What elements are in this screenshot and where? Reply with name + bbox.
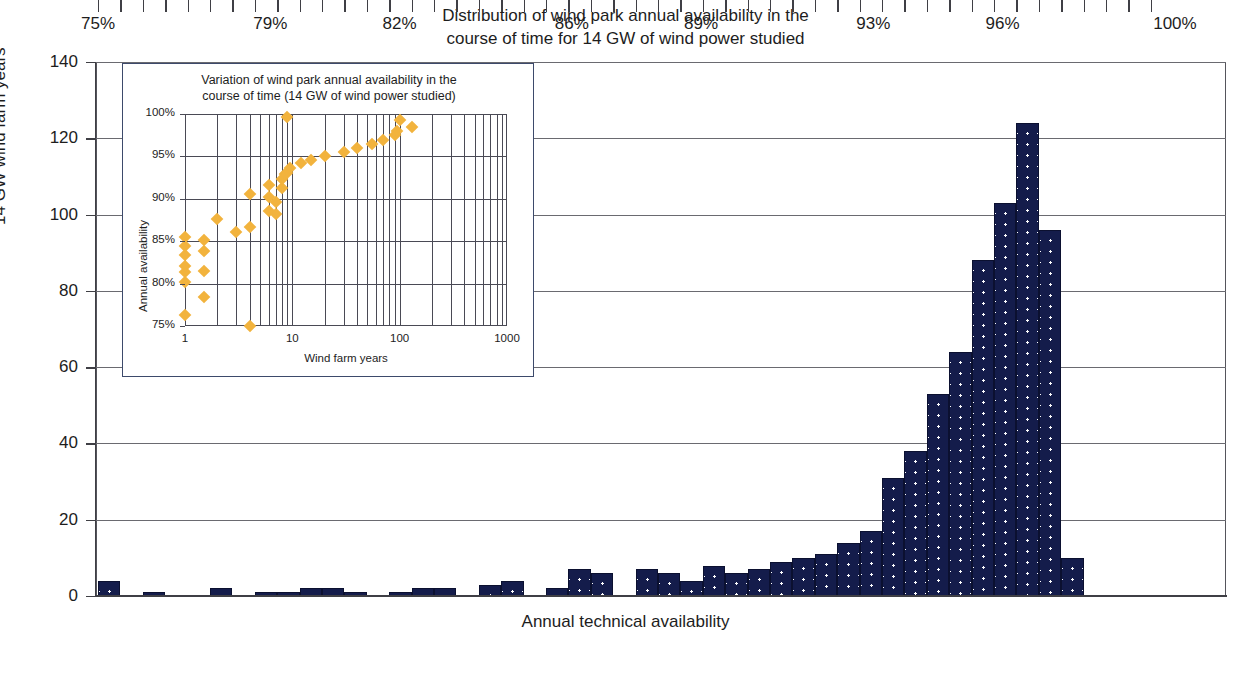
- inset-gridline: [269, 114, 270, 326]
- x-axis-tick-label: 93%: [856, 14, 890, 34]
- x-axis-tick: [1128, 0, 1129, 12]
- histogram-bar: [680, 581, 702, 596]
- y-axis-tick-label: 0: [18, 586, 78, 606]
- inset-gridline: [325, 114, 326, 326]
- inset-plot-area: 75%80%85%90%95%100% 1101001000: [185, 114, 507, 326]
- x-axis-tick: [143, 0, 144, 12]
- y-axis-tick: [86, 215, 95, 216]
- x-axis-tick: [344, 0, 345, 12]
- histogram-bar: [927, 394, 949, 596]
- x-axis-tick: [1061, 0, 1062, 12]
- chart-page: Distribution of wind park annual availab…: [0, 0, 1251, 676]
- inset-gridline: [282, 114, 283, 326]
- inset-y-tick-label: 75%: [131, 318, 175, 330]
- x-axis-tick: [300, 0, 301, 12]
- y-axis-tick-label: 120: [18, 128, 78, 148]
- x-axis-tick: [613, 0, 614, 12]
- main-x-axis: [96, 595, 1227, 597]
- inset-gridline: [451, 114, 452, 326]
- inset-x-tick-label: 1: [182, 332, 188, 344]
- x-axis-tick: [434, 0, 435, 12]
- x-axis-tick: [882, 0, 883, 12]
- x-axis-tick: [412, 0, 413, 12]
- x-axis-tick: [725, 0, 726, 12]
- y-axis-tick-label: 80: [18, 281, 78, 301]
- histogram-bar: [658, 573, 680, 596]
- main-x-axis-title: Annual technical availability: [0, 612, 1251, 632]
- y-axis-tick: [86, 62, 95, 63]
- histogram-bar: [770, 562, 792, 596]
- x-axis-tick: [792, 0, 793, 12]
- x-axis-tick: [501, 0, 502, 12]
- histogram-bar: [904, 451, 926, 596]
- histogram-bar: [837, 543, 859, 596]
- histogram-bar: [815, 554, 837, 596]
- y-axis-tick-label: 20: [18, 510, 78, 530]
- inset-chart: Variation of wind park annual availabili…: [122, 63, 534, 377]
- inset-y-tick-label: 85%: [131, 233, 175, 245]
- inset-gridline: [185, 156, 507, 157]
- histogram-bar: [1016, 123, 1038, 596]
- inset-gridline: [185, 199, 507, 200]
- x-axis-tick: [994, 0, 995, 12]
- y-axis-tick-label: 100: [18, 205, 78, 225]
- x-axis-tick: [703, 0, 704, 12]
- x-axis-tick: [1151, 0, 1152, 12]
- x-axis-tick: [658, 0, 659, 12]
- inset-y-tick-label: 95%: [131, 148, 175, 160]
- y-axis-tick-label: 40: [18, 433, 78, 453]
- x-axis-tick: [904, 0, 905, 12]
- histogram-bar: [972, 260, 994, 596]
- inset-chart-title: Variation of wind park annual availabili…: [123, 72, 535, 104]
- inset-gridline: [400, 114, 401, 326]
- x-axis-tick-label: 82%: [383, 14, 417, 34]
- inset-title-line-2: course of time (14 GW of wind power stud…: [123, 88, 535, 104]
- histogram-bar: [703, 566, 725, 597]
- histogram-bar: [725, 573, 747, 596]
- inset-y-tick: [180, 284, 185, 285]
- x-axis-tick: [456, 0, 457, 12]
- histogram-bar: [792, 558, 814, 596]
- x-axis-tick: [524, 0, 525, 12]
- histogram-bar: [748, 569, 770, 596]
- inset-y-tick: [180, 156, 185, 157]
- x-axis-tick: [255, 0, 256, 12]
- inset-gridline: [236, 114, 237, 326]
- x-axis-tick: [232, 0, 233, 12]
- inset-x-tick-label: 1000: [494, 332, 520, 344]
- histogram-bar: [591, 573, 613, 596]
- y-axis-tick: [86, 443, 95, 444]
- x-axis-tick-label: 79%: [253, 14, 287, 34]
- x-axis-tick: [972, 0, 973, 12]
- x-axis-tick-label: 75%: [81, 14, 115, 34]
- histogram-bar: [568, 569, 590, 596]
- inset-gridline: [185, 284, 507, 285]
- histogram-bar: [98, 581, 120, 596]
- x-axis-tick: [120, 0, 121, 12]
- x-axis-tick: [680, 0, 681, 12]
- y-axis-tick: [86, 367, 95, 368]
- inset-gridline: [490, 114, 491, 326]
- inset-y-tick-label: 80%: [131, 276, 175, 288]
- inset-y-tick: [180, 114, 185, 115]
- x-axis-tick: [1084, 0, 1085, 12]
- inset-gridline: [395, 114, 396, 326]
- main-title-line-2: course of time for 14 GW of wind power s…: [0, 27, 1251, 50]
- inset-gridline: [292, 114, 293, 326]
- inset-gridline: [464, 114, 465, 326]
- x-axis-tick-label: 89%: [684, 14, 718, 34]
- x-axis-tick-label: 96%: [986, 14, 1020, 34]
- x-axis-tick: [546, 0, 547, 12]
- histogram-bar: [1061, 558, 1083, 596]
- x-axis-tick: [210, 0, 211, 12]
- y-axis-tick: [86, 138, 95, 139]
- x-axis-tick: [1106, 0, 1107, 12]
- histogram-bar: [994, 203, 1016, 596]
- x-axis-tick: [277, 0, 278, 12]
- histogram-bar: [501, 581, 523, 596]
- inset-plot-border: [185, 114, 507, 326]
- y-axis-tick-label: 60: [18, 357, 78, 377]
- histogram-bar: [882, 478, 904, 596]
- x-axis-tick: [389, 0, 390, 12]
- x-axis-tick-label: 100%: [1153, 14, 1196, 34]
